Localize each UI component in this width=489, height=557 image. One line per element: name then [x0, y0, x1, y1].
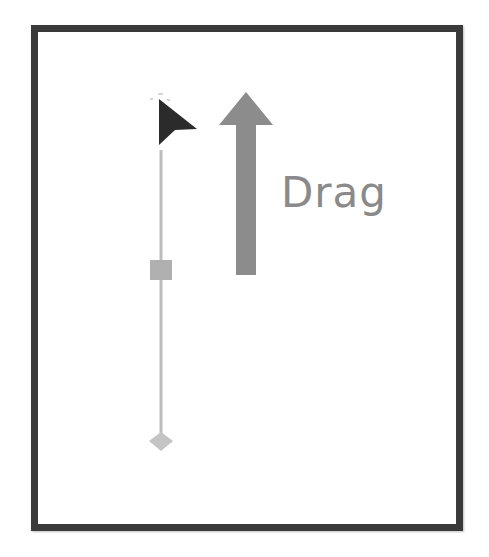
mouse-pointer-icon	[159, 99, 197, 145]
diamond-end-icon	[149, 432, 173, 451]
arrow-up-icon	[219, 92, 273, 275]
drag-diagram	[0, 0, 489, 557]
drag-label: Drag	[281, 172, 387, 214]
slider-handle[interactable]	[150, 260, 172, 280]
